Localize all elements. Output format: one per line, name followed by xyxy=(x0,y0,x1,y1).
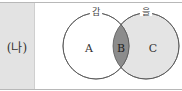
venn-diagram-cell: 갑 을 A B C xyxy=(35,3,182,89)
set-left-name: 갑 xyxy=(92,6,100,17)
region-a-label: A xyxy=(84,42,94,55)
venn-diagram: 갑 을 A B C xyxy=(35,3,182,89)
region-c-label: C xyxy=(149,42,157,55)
venn-table-row: (나) 갑 을 A B C xyxy=(0,2,182,90)
set-right-name: 을 xyxy=(142,7,150,17)
region-b-label: B xyxy=(117,42,125,55)
row-label: (나) xyxy=(0,3,35,89)
